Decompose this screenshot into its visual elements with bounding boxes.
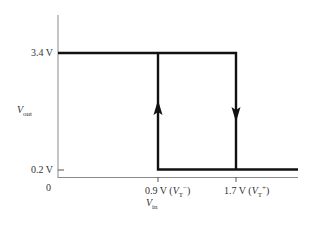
paren-close: ) [187, 185, 190, 196]
paren-close: ) [266, 185, 269, 196]
x-tick-value: 1.7 V ( [224, 185, 252, 196]
threshold-subscript: T [258, 191, 262, 199]
y-tick-label-high: 3.4 V [31, 47, 53, 59]
x-axis-label: Vin [146, 197, 158, 213]
threshold-subscript: T [179, 191, 183, 199]
x-tick-label-upper: 1.7 V (VT+) [224, 182, 269, 201]
y-axis-subscript: out [23, 110, 32, 118]
y-tick-label-low: 0.2 V [31, 164, 53, 176]
high-level-line [58, 53, 236, 170]
low-level-line [158, 53, 298, 170]
y-axis-label: Vout [17, 104, 32, 120]
origin-label: 0 [46, 182, 51, 194]
x-tick-value: 0.9 V ( [145, 185, 173, 196]
x-axis-subscript: in [152, 203, 157, 211]
